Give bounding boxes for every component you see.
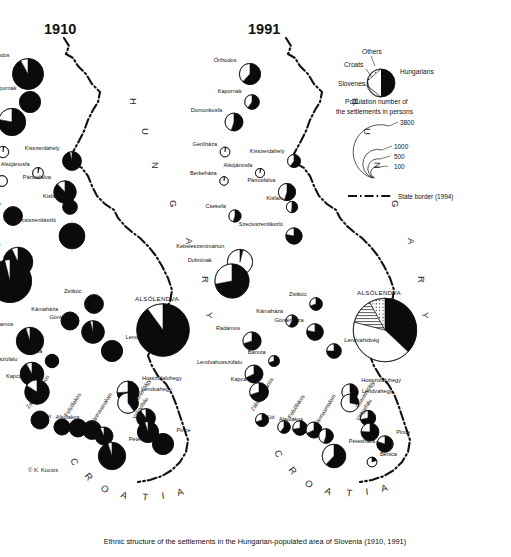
- settlement-pie: [245, 95, 260, 110]
- settlement-label: Pince: [177, 427, 191, 433]
- settlement-pie: [319, 429, 334, 444]
- settlement-label: Hosszúfaluhegy: [361, 377, 401, 383]
- settlement-label: Bánuta: [248, 349, 267, 355]
- settlement-label: Kapornak: [0, 85, 17, 91]
- settlement-pie: [307, 324, 324, 341]
- settlement-label: Alsólakos: [279, 416, 303, 422]
- settlement-pie: [54, 419, 70, 435]
- svg-text:U: U: [140, 128, 151, 135]
- legend-label-croats: Croats: [344, 61, 364, 68]
- settlement-label: Kámaháza: [256, 308, 284, 314]
- settlement-label: Alsójánosfa: [223, 162, 253, 168]
- settlement-pie: [59, 223, 85, 249]
- settlement-pie: [0, 108, 26, 135]
- settlement-pie: [215, 264, 249, 298]
- settlement-pie: [54, 181, 76, 203]
- settlement-pie: [152, 433, 173, 454]
- settlement-label: Lendvahosszúfalu: [197, 359, 242, 365]
- settlement-label: ALSÓLENDVA: [135, 295, 179, 302]
- settlement-pie: [82, 321, 105, 344]
- settlement-pie: [269, 356, 280, 367]
- settlement-pie: [0, 176, 7, 187]
- settlement-label: Kisfalu: [43, 193, 60, 199]
- settlement-pie: [239, 63, 260, 84]
- legend-size-1000: 1000: [394, 143, 409, 150]
- settlement-pie: [278, 421, 291, 434]
- legend-size-3800: 3800: [400, 119, 415, 126]
- panel-title-1991: 1991: [248, 21, 280, 37]
- settlement-pie: [19, 91, 40, 112]
- svg-text:U: U: [362, 128, 373, 135]
- settlement-label: Alsójánosfa: [1, 161, 31, 167]
- settlement-label: Dobrónak: [188, 257, 212, 263]
- settlement-label: Kisszerdahely: [250, 148, 285, 154]
- settlement-label: Radamos: [216, 325, 240, 331]
- settlement-pie: [85, 295, 104, 314]
- settlement-pie: [310, 298, 323, 311]
- svg-text:G: G: [168, 200, 179, 207]
- settlement-pie: [220, 147, 230, 157]
- legend-border-label: State border (1994): [398, 193, 453, 201]
- settlement-pie: [98, 442, 125, 469]
- settlement-label: Lendvahosszúfalu: [0, 356, 17, 362]
- settlement-label: Kisfalu: [267, 195, 284, 201]
- settlement-label: Lendvahidvég: [126, 334, 161, 340]
- settlement-label: Petesháza: [129, 436, 156, 442]
- settlement-pie: [353, 298, 416, 361]
- settlement-label: ALSÓLENDVA: [357, 289, 401, 296]
- legend-size-100: 100: [394, 163, 405, 170]
- settlement-label: Kapornak: [218, 88, 242, 94]
- settlement-label: Zsitkóc: [64, 288, 82, 294]
- svg-text:A: A: [406, 238, 417, 245]
- settlement-pie: [286, 228, 302, 244]
- settlement-label: Domonkosfa: [191, 107, 223, 113]
- legend-label-hungarians: Hungarians: [400, 68, 434, 76]
- settlement-pie: [245, 365, 263, 383]
- ethnic-map-figure: 1910 ŐrihodosKapornakDomonkosfaGerőházaK…: [0, 0, 511, 557]
- settlement-pie: [243, 332, 261, 350]
- settlement-pie: [63, 200, 78, 215]
- settlement-label: Gerőháza: [193, 141, 218, 147]
- settlement-label: Alsólakos: [56, 414, 80, 420]
- settlement-pie: [225, 113, 243, 131]
- map-canvas: 1910 ŐrihodosKapornakDomonkosfaGerőházaK…: [0, 0, 511, 557]
- settlement-label: Kapca: [6, 373, 23, 379]
- settlement-label: Göntérháza: [274, 317, 304, 323]
- settlement-pie: [327, 344, 342, 359]
- svg-text:H: H: [128, 98, 139, 105]
- settlement-label: Kámaháza: [31, 306, 59, 312]
- settlement-pie: [293, 421, 308, 436]
- settlement-label: Göntérháza: [49, 314, 79, 320]
- settlement-label: Csekefa: [205, 203, 226, 209]
- legend-label-others: Others: [362, 48, 382, 55]
- settlement-pie: [286, 201, 297, 212]
- settlement-pie: [101, 340, 122, 361]
- settlement-pie: [367, 457, 377, 467]
- settlement-label: Radamos: [0, 321, 14, 327]
- svg-text:Y: Y: [420, 312, 431, 319]
- settlement-label: Kót: [266, 414, 275, 420]
- settlement-label: Pártosfalva: [23, 174, 52, 180]
- settlement-label: Őrihodos: [0, 52, 10, 58]
- settlement-label: Pince: [396, 429, 410, 435]
- copyright-note: © K. Kocsis: [28, 467, 58, 473]
- svg-text:N: N: [150, 162, 161, 169]
- legend-label-slovenes: Slovenes: [338, 80, 366, 87]
- settlement-pie: [45, 354, 58, 367]
- settlement-pie: [220, 177, 229, 186]
- settlement-label: Zsitkóc: [289, 291, 307, 297]
- settlement-label: Lendvahidvég: [344, 337, 379, 343]
- settlement-pie: [287, 154, 300, 167]
- settlement-label: Pártosfalva: [247, 177, 276, 183]
- settlement-pie: [0, 146, 9, 157]
- settlement-pie: [63, 152, 82, 171]
- settlement-pie: [322, 444, 345, 467]
- settlement-label: Kebeleszentmárton: [176, 243, 224, 249]
- svg-text:G: G: [390, 200, 401, 207]
- legend-size-500: 500: [394, 153, 405, 160]
- svg-text:R: R: [200, 276, 211, 283]
- settlement-label: Szecsiszentlászló: [12, 217, 56, 223]
- settlement-pie: [137, 304, 190, 357]
- svg-text:R: R: [416, 276, 427, 283]
- legend-size-title-line2: the settlements in persons: [336, 108, 414, 116]
